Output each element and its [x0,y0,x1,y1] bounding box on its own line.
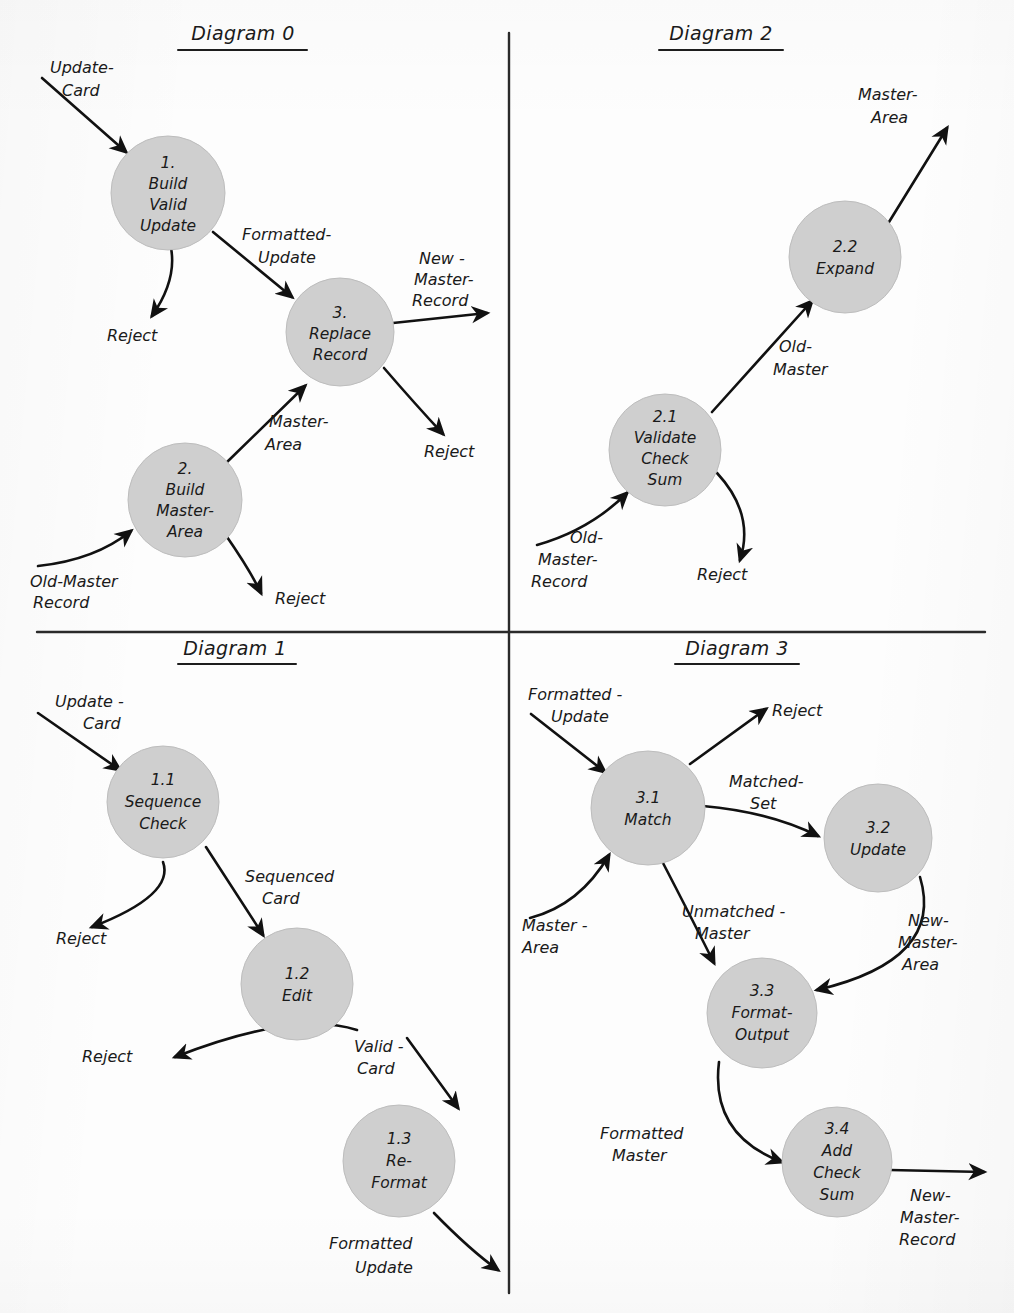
process-1[interactable]: 1. Build Valid Update [111,136,225,250]
flow-label-formatted-update-d1-line1: Formatted [329,1234,413,1253]
process-3-2[interactable]: 3.2 Update [824,784,932,892]
diagram-2-flow-arrows [537,128,947,560]
flow-label-formatted-update-line1: Formatted- [242,225,332,244]
process-3-2-line2: Update [850,841,906,859]
arrow-2-1-to-reject [717,473,744,560]
flow-label-old-master-record-in-line2: Master- [538,550,598,569]
process-2-1-number: 2.1 [653,408,678,426]
process-3[interactable]: 3. Replace Record [286,278,394,386]
flow-label-old-master-line1: Old- [779,337,812,356]
process-3-1[interactable]: 3.1 Match [591,751,705,865]
process-2-1-line3: Check [641,450,690,468]
process-1-2-bubble[interactable] [241,928,353,1040]
process-2[interactable]: 2. Build Master- Area [128,443,242,557]
process-1-1[interactable]: 1.1 Sequence Check [107,746,219,858]
process-3-4-number: 3.4 [825,1120,850,1138]
process-2-2-number: 2.2 [833,238,858,256]
flow-label-master-area-line1: Master- [269,412,329,431]
process-2-2-line2: Expand [816,260,874,278]
flow-label-reject-from-3-1: Reject [772,701,823,720]
flow-label-master-area-out-line1: Master- [858,85,918,104]
flow-label-master-area-line2: Area [264,435,302,454]
arrow-1-3-to-formatted-update [434,1213,498,1270]
flow-label-valid-card-line2: Card [357,1059,396,1078]
flow-label-new-master-area: New- Master- Area [898,911,958,974]
flow-label-master-area-out: Master- Area [858,85,918,127]
process-2-1-line2: Validate [634,429,697,447]
flow-label-update-card-line1: Update- [50,58,114,77]
arrow-3-1-to-reject [690,709,766,764]
diagram-0-flow-arrows [38,78,487,593]
flow-label-master-area-d3-line1: Master - [522,916,588,935]
diagram-1-title: Diagram 1 [183,637,286,659]
flow-label-reject-from-1: Reject [107,326,158,345]
process-1-2[interactable]: 1.2 Edit [241,928,353,1040]
process-1-3-number: 1.3 [387,1130,412,1148]
process-1-1-line2: Sequence [125,793,201,811]
process-3-1-bubble[interactable] [591,751,705,865]
process-3-3-number: 3.3 [750,982,775,1000]
flow-label-old-master-record-line1: Old-Master [30,572,119,591]
process-1-3-line2: Re- [386,1152,412,1170]
process-3-4[interactable]: 3.4 Add Check Sum [782,1107,892,1217]
process-2-1-line4: Sum [648,471,683,489]
process-2-2[interactable]: 2.2 Expand [789,201,901,313]
flow-label-new-master-record: New - Master- Record [412,249,474,310]
flow-label-old-master-record-in-line3: Record [531,572,588,591]
flow-label-matched-set-line2: Set [750,794,777,813]
arrow-3-to-new-master-record [393,313,487,323]
process-2-1[interactable]: 2.1 Validate Check Sum [609,394,721,506]
diagram-3-title: Diagram 3 [685,637,788,659]
diagram-0-title: Diagram 0 [191,22,294,44]
flow-label-new-master-record-d3-line3: Record [899,1230,956,1249]
arrow-old-master-record-to-2 [38,531,131,566]
process-1-3[interactable]: 1.3 Re- Format [343,1105,455,1217]
arrow-2-1-to-2-2 [712,301,812,412]
flow-label-reject-from-2-1: Reject [697,565,748,584]
process-3-number: 3. [333,304,348,322]
flow-label-unmatched-master-line1: Unmatched - [682,902,786,921]
process-1-3-line3: Format [371,1174,427,1192]
flow-label-sequenced-card-line1: Sequenced [245,867,335,886]
process-3-1-number: 3.1 [636,789,661,807]
flow-label-sequenced-card: Sequenced Card [245,867,335,908]
arrow-3-4-to-new-master-record [890,1170,984,1172]
quadrant-diagram-3: Diagram 3 3.1 Match 3.2 Update [521,637,984,1249]
flow-label-update-card-d1-line2: Card [83,714,122,733]
flow-label-reject-from-3: Reject [424,442,475,461]
process-3-4-line4: Sum [820,1186,855,1204]
arrow-3-to-reject [384,368,443,434]
flow-label-formatted-update-d1: Formatted Update [329,1234,413,1277]
flow-label-old-master: Old- Master [773,337,829,379]
flow-label-update-card-d1-line1: Update - [55,692,124,711]
diagram-sheet: Diagram 0 1. Build Valid Update [0,0,1014,1313]
arrow-1-2-to-1-3 [407,1038,458,1108]
flow-label-master-area-d3-line2: Area [521,938,559,957]
flow-label-sequenced-card-line2: Card [262,889,301,908]
process-1-line3: Valid [149,196,187,214]
flow-label-update-card-line2: Card [62,81,101,100]
flow-label-matched-set-line1: Matched- [729,772,804,791]
process-2-line2: Build [166,481,205,499]
process-3-4-line3: Check [813,1164,862,1182]
arrow-2-to-reject [225,534,261,593]
flow-label-old-master-record-line2: Record [33,593,90,612]
process-2-line3: Master- [156,502,214,520]
flow-label-new-master-record-d3-line2: Master- [900,1208,960,1227]
diagram-canvas: Diagram 0 1. Build Valid Update [0,0,1014,1313]
flow-label-formatted-update-d3-line1: Formatted - [528,685,623,704]
process-3-3[interactable]: 3.3 Format- Output [707,958,817,1068]
flow-label-new-master-record-d3-line1: New- [910,1186,951,1205]
flow-label-formatted-update-d3-line2: Update [551,707,609,726]
process-2-2-bubble[interactable] [789,201,901,313]
process-3-3-line3: Output [735,1026,790,1044]
flow-label-old-master-record: Old-Master Record [30,572,119,612]
arrow-master-area-to-3-1 [530,855,609,918]
arrow-1-1-to-reject [92,862,165,927]
process-3-2-bubble[interactable] [824,784,932,892]
process-3-2-number: 3.2 [866,819,891,837]
flow-label-new-master-record-d3: New- Master- Record [899,1186,960,1249]
process-1-2-number: 1.2 [285,965,310,983]
flow-label-formatted-update: Formatted- Update [242,225,332,267]
flow-label-formatted-update-line2: Update [258,248,316,267]
